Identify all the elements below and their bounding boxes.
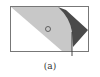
- diagram-figure: [0, 0, 100, 60]
- figure-caption: (a): [0, 61, 100, 71]
